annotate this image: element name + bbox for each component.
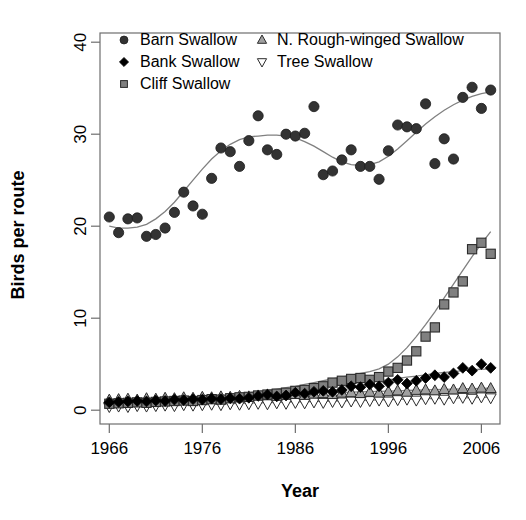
legend-marker-bank-swallow — [119, 57, 128, 66]
legend-item-tree-swallow: Tree Swallow — [257, 53, 372, 70]
x-tick-label: 2006 — [462, 439, 500, 458]
point-barn-swallow — [486, 85, 496, 95]
point-tree-swallow — [485, 394, 496, 404]
y-tick-label: 0 — [71, 405, 90, 414]
point-barn-swallow — [132, 213, 142, 223]
x-tick-label: 1976 — [183, 439, 221, 458]
point-barn-swallow — [467, 82, 477, 92]
point-barn-swallow — [439, 134, 449, 144]
point-cliff-swallow — [421, 332, 430, 341]
legend-marker-barn-swallow — [120, 36, 128, 44]
point-bank-swallow — [429, 370, 440, 381]
point-barn-swallow — [402, 122, 412, 132]
point-cliff-swallow — [467, 245, 476, 254]
point-cliff-swallow — [374, 372, 383, 381]
point-tree-swallow — [318, 398, 329, 408]
x-tick-label: 1986 — [276, 439, 314, 458]
point-cliff-swallow — [477, 238, 486, 247]
legend-marker-tree-swallow — [257, 59, 266, 67]
point-barn-swallow — [365, 161, 375, 171]
point-barn-swallow — [290, 131, 300, 141]
legend-label-tree-swallow: Tree Swallow — [277, 53, 373, 70]
trend-lines — [109, 92, 490, 407]
y-axis-title: Birds per route — [8, 170, 28, 299]
point-n-rough-winged-swallow — [420, 384, 431, 394]
point-n-rough-winged-swallow — [439, 384, 450, 394]
point-barn-swallow — [244, 136, 254, 146]
point-barn-swallow — [123, 214, 133, 224]
point-barn-swallow — [476, 103, 486, 113]
point-cliff-swallow — [393, 363, 402, 372]
legend-item-bank-swallow: Bank Swallow — [119, 53, 240, 70]
legend-item-cliff-swallow: Cliff Swallow — [121, 75, 231, 92]
point-barn-swallow — [114, 228, 124, 238]
point-bank-swallow — [467, 365, 478, 376]
y-tick-label: 10 — [71, 309, 90, 328]
point-cliff-swallow — [384, 367, 393, 376]
x-axis-title: Year — [281, 481, 319, 501]
point-n-rough-winged-swallow — [457, 383, 468, 393]
point-barn-swallow — [374, 174, 384, 184]
point-barn-swallow — [448, 154, 458, 164]
chart-legend: Barn SwallowBank SwallowCliff SwallowN. … — [119, 31, 464, 92]
point-tree-swallow — [336, 398, 347, 408]
legend-marker-cliff-swallow — [121, 81, 128, 88]
point-barn-swallow — [225, 147, 235, 157]
point-barn-swallow — [169, 207, 179, 217]
point-barn-swallow — [179, 187, 189, 197]
y-tick-label: 30 — [71, 125, 90, 144]
point-tree-swallow — [392, 396, 403, 406]
point-cliff-swallow — [449, 288, 458, 297]
swallow-population-chart: 19661976198619962006010203040 Barn Swall… — [0, 0, 526, 520]
point-tree-swallow — [299, 399, 310, 409]
point-barn-swallow — [458, 92, 468, 102]
point-barn-swallow — [393, 120, 403, 130]
point-barn-swallow — [281, 129, 291, 139]
legend-marker-n-rough-winged-swallow — [257, 35, 266, 43]
point-tree-swallow — [262, 400, 273, 410]
point-barn-swallow — [309, 102, 319, 112]
point-barn-swallow — [234, 161, 244, 171]
point-tree-swallow — [411, 396, 422, 406]
series-barn-swallow — [104, 82, 496, 241]
point-cliff-swallow — [402, 356, 411, 365]
point-tree-swallow — [467, 394, 478, 404]
legend-item-n-rough-winged-swallow: N. Rough-winged Swallow — [257, 31, 464, 48]
point-cliff-swallow — [328, 378, 337, 387]
point-n-rough-winged-swallow — [392, 385, 403, 395]
point-barn-swallow — [383, 146, 393, 156]
point-barn-swallow — [188, 201, 198, 211]
y-tick-label: 40 — [71, 33, 90, 52]
point-tree-swallow — [439, 395, 450, 405]
point-tree-swallow — [420, 395, 431, 405]
point-tree-swallow — [383, 397, 394, 407]
legend-label-bank-swallow: Bank Swallow — [140, 53, 240, 70]
chart-figure: 19661976198619962006010203040 Barn Swall… — [0, 0, 526, 520]
point-barn-swallow — [104, 212, 114, 222]
point-tree-swallow — [448, 394, 459, 404]
point-cliff-swallow — [337, 376, 346, 385]
point-barn-swallow — [318, 170, 328, 180]
point-barn-swallow — [141, 231, 151, 241]
point-cliff-swallow — [430, 323, 439, 332]
point-barn-swallow — [160, 223, 170, 233]
point-tree-swallow — [355, 398, 366, 408]
x-tick-label: 1966 — [90, 439, 128, 458]
point-barn-swallow — [253, 111, 263, 121]
point-cliff-swallow — [440, 300, 449, 309]
point-barn-swallow — [355, 161, 365, 171]
point-n-rough-winged-swallow — [476, 382, 487, 392]
point-barn-swallow — [272, 149, 282, 159]
point-barn-swallow — [337, 155, 347, 165]
point-cliff-swallow — [356, 373, 365, 382]
point-barn-swallow — [327, 166, 337, 176]
point-barn-swallow — [346, 145, 356, 155]
point-barn-swallow — [151, 229, 161, 239]
legend-label-cliff-swallow: Cliff Swallow — [140, 75, 231, 92]
point-barn-swallow — [197, 209, 207, 219]
point-barn-swallow — [262, 145, 272, 155]
legend-label-n-rough-winged-swallow: N. Rough-winged Swallow — [277, 31, 464, 48]
point-cliff-swallow — [486, 249, 495, 258]
y-tick-label: 20 — [71, 217, 90, 236]
point-barn-swallow — [420, 99, 430, 109]
